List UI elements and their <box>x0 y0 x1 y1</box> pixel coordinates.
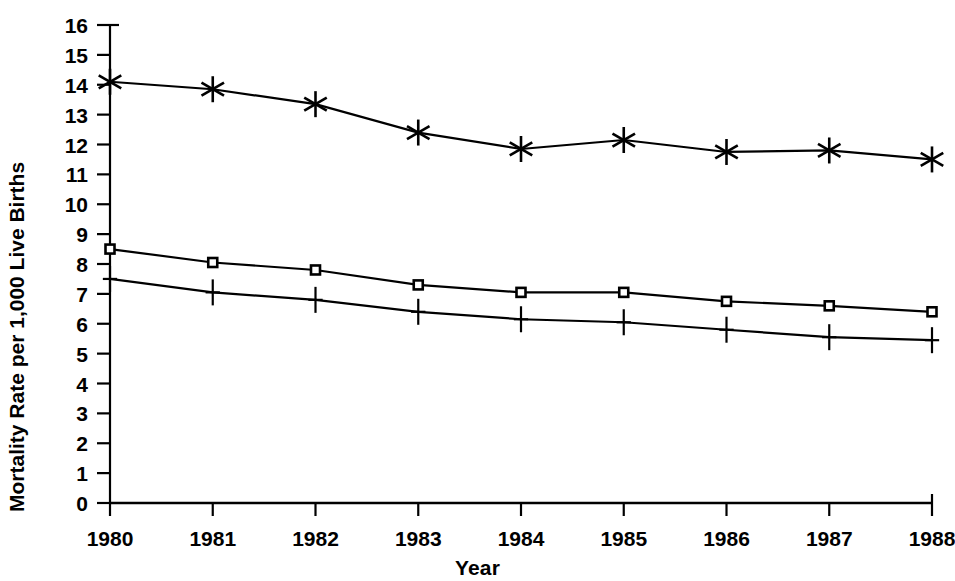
data-point-marker <box>719 317 733 343</box>
y-axis-tick-label: 7 <box>76 283 88 306</box>
data-point-marker <box>617 309 631 335</box>
data-point-marker <box>311 265 320 274</box>
x-axis-ticks: 198019811982198319841985198619871988 <box>87 503 955 550</box>
x-axis-tick-label: 1985 <box>600 527 647 550</box>
line-chart-plot: 012345678910111213141516 198019811982198… <box>0 0 955 581</box>
x-axis-tick-label: 1984 <box>498 527 545 550</box>
x-axis-tick-label: 1987 <box>806 527 853 550</box>
y-axis-ticks: 012345678910111213141516 <box>65 14 110 515</box>
data-point-marker <box>925 327 939 353</box>
data-point-marker <box>106 245 115 254</box>
data-point-marker <box>822 324 836 350</box>
x-axis-tick-label: 1981 <box>189 527 236 550</box>
y-axis-tick-label: 2 <box>76 432 88 455</box>
y-axis-tick-label: 9 <box>76 223 88 246</box>
y-axis-tick-label: 3 <box>76 402 88 425</box>
x-axis-tick-label: 1983 <box>395 527 442 550</box>
x-axis-tick-label: 1988 <box>909 527 955 550</box>
data-point-marker <box>407 120 430 146</box>
y-axis-tick-label: 12 <box>65 134 88 157</box>
x-axis-title: Year <box>0 556 955 580</box>
y-axis-tick-label: 16 <box>65 14 88 37</box>
y-axis-tick-label: 8 <box>76 253 88 276</box>
data-point-marker <box>517 288 526 297</box>
y-axis-tick-label: 6 <box>76 313 88 336</box>
data-series-plus <box>103 266 939 353</box>
data-point-marker <box>825 301 834 310</box>
data-point-marker <box>619 288 628 297</box>
y-axis-tick-label: 5 <box>76 343 88 366</box>
data-series-asterisk <box>99 69 944 173</box>
data-series-group <box>99 69 944 353</box>
y-axis-tick-label: 10 <box>65 193 88 216</box>
data-point-marker <box>414 280 423 289</box>
y-axis-tick-label: 0 <box>76 492 88 515</box>
data-point-marker <box>206 279 220 305</box>
y-axis-tick-label: 11 <box>66 163 89 186</box>
y-axis-tick-label: 14 <box>65 74 89 97</box>
data-series-open-square <box>106 245 937 317</box>
data-point-marker <box>103 266 117 292</box>
y-axis-tick-label: 4 <box>76 373 88 396</box>
x-axis-tick-label: 1982 <box>292 527 339 550</box>
data-point-marker <box>208 258 217 267</box>
data-point-marker <box>928 307 937 316</box>
chart-container: Mortality Rate per 1,000 Live Births 012… <box>0 0 955 581</box>
x-axis-tick-label: 1986 <box>703 527 750 550</box>
data-point-marker <box>514 306 528 332</box>
y-axis-tick-label: 13 <box>65 104 88 127</box>
data-point-marker <box>304 91 327 117</box>
data-point-marker <box>411 299 425 325</box>
data-point-marker <box>308 287 322 313</box>
y-axis-tick-label: 1 <box>76 462 88 485</box>
data-point-marker <box>722 297 731 306</box>
x-axis-tick-label: 1980 <box>87 527 134 550</box>
y-axis-tick-label: 15 <box>65 44 89 67</box>
